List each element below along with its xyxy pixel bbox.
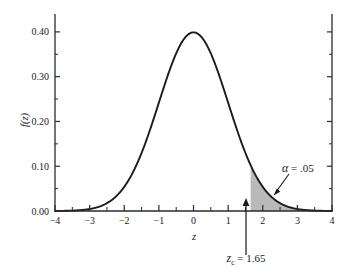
x-tick-label: 1 <box>226 215 231 226</box>
critical-value-label: zc = 1.65 <box>226 251 266 267</box>
y-tick-label: 0.40 <box>32 26 50 37</box>
y-axis-right-ticks <box>327 32 332 211</box>
normal-density-curve <box>55 32 332 211</box>
x-axis-title: z <box>191 231 196 242</box>
y-tick-label: 0.20 <box>32 116 50 127</box>
x-tick-label: −1 <box>154 215 165 226</box>
alpha-label: α = .05 <box>282 161 314 175</box>
chart-canvas: 0.000.100.200.300.40 −4−3−2−101234 f(z) … <box>0 0 353 267</box>
x-tick-label: −3 <box>84 215 95 226</box>
y-axis-ticks <box>55 32 60 211</box>
x-tick-label: −2 <box>119 215 130 226</box>
normal-distribution-figure: 0.000.100.200.300.40 −4−3−2−101234 f(z) … <box>0 0 353 267</box>
alpha-value: = .05 <box>288 162 314 174</box>
x-tick-label: 0 <box>191 215 196 226</box>
alpha-arrowhead <box>274 188 281 195</box>
x-tick-label: 2 <box>260 215 265 226</box>
critical-value-number: = 1.65 <box>235 252 266 264</box>
critical-value-arrowhead <box>243 198 250 206</box>
x-tick-label: 4 <box>330 215 335 226</box>
x-axis-tick-labels: −4−3−2−101234 <box>50 215 335 226</box>
y-axis-title: f(z) <box>19 113 31 128</box>
x-tick-label: −4 <box>50 215 61 226</box>
y-tick-label: 0.30 <box>32 71 50 82</box>
y-tick-label: 0.10 <box>32 161 50 172</box>
x-tick-label: 3 <box>295 215 300 226</box>
y-axis-tick-labels: 0.000.100.200.300.40 <box>32 26 50 216</box>
y-tick-label: 0.00 <box>32 206 50 217</box>
